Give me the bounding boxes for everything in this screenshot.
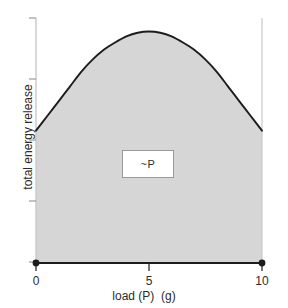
x-axis-tick-label-5: 5 <box>139 274 159 288</box>
x-axis-title: load (P) (g) <box>0 289 288 303</box>
x-axis-tick-label-0: 0 <box>26 274 46 288</box>
x-axis-tick-label-10: 10 <box>250 274 274 288</box>
region-annotation-label: ~P <box>122 150 174 178</box>
data-point-marker-origin <box>33 260 40 267</box>
chart-figure: 0 5 10 load (P) (g) total energy release… <box>0 0 288 308</box>
area-fill-total-energy-release <box>36 31 262 263</box>
x-axis-ticks <box>36 263 262 271</box>
data-point-marker-x10 <box>259 260 266 267</box>
y-axis-title: total energy release <box>21 47 35 227</box>
